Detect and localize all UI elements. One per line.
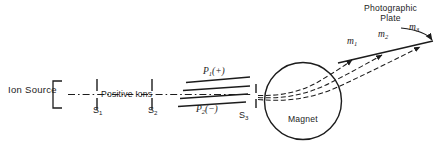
mass-m1-label: m1 — [347, 36, 357, 47]
mass-m1-base: m — [347, 36, 354, 46]
plate-p2-charge: (−) — [205, 104, 218, 114]
mass-m3-base: m — [409, 22, 416, 32]
beam-path-m3 — [258, 47, 420, 100]
photographic-plate-label-line2: Plate — [380, 13, 401, 23]
beam-path-m2 — [258, 55, 382, 98]
magnet-label: Magnet — [288, 115, 318, 125]
slit-s2-subscript: 2 — [154, 109, 157, 116]
photographic-plate-label-line1: Photographic — [364, 3, 417, 13]
slit-s2-label: S2 — [148, 105, 157, 117]
ion-source-label: Ion Source — [8, 85, 57, 96]
slit-s3-label: S3 — [239, 110, 248, 122]
slit-s1-label: S1 — [93, 105, 102, 117]
plate-p1 — [183, 77, 250, 91]
mass-m2-subscript: 2 — [385, 33, 388, 40]
mass-m3-subscript: 3 — [416, 26, 419, 33]
positive-ions-label: Positive Ions — [101, 90, 152, 100]
photographic-plate-label: PhotographicPlate — [364, 4, 417, 23]
diagram-canvas — [0, 0, 446, 156]
mass-m2-label: m2 — [378, 29, 388, 40]
slit-s3-subscript: 3 — [245, 114, 248, 121]
mass-m1-subscript: 1 — [354, 40, 357, 47]
plate-p2-label: P2(−) — [196, 104, 218, 115]
magnet-circle — [265, 63, 342, 140]
mass-m2-base: m — [378, 29, 385, 39]
plate-p1-label: P1(+) — [203, 66, 225, 77]
plate-p1-charge: (+) — [212, 66, 225, 76]
mass-spectrometer-diagram: Ion Source Positive Ions S1 S2 S3 P1(+) … — [0, 0, 446, 156]
slit-s1-subscript: 1 — [99, 109, 102, 116]
mass-m3-label: m3 — [409, 22, 419, 33]
